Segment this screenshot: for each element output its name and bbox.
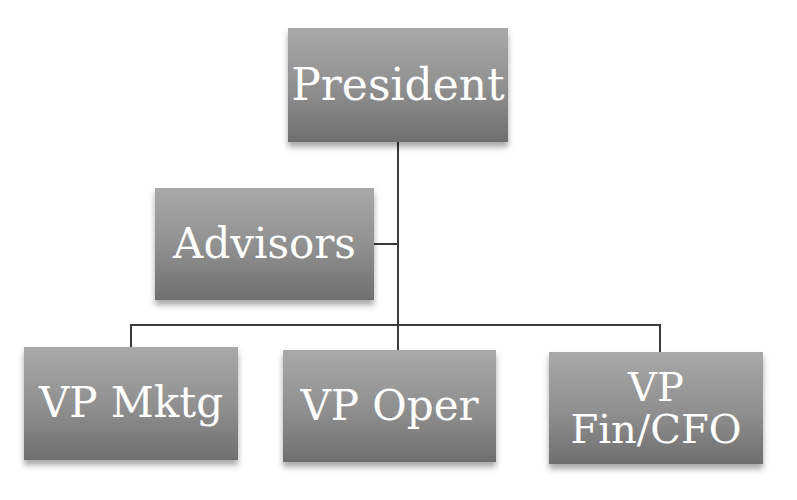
connector-advisors (374, 243, 398, 245)
node-vp-oper: VP Oper (283, 350, 496, 462)
node-advisors-label: Advisors (173, 222, 356, 266)
node-vp-fin-cfo: VP Fin/CFO (549, 352, 763, 464)
node-vp-oper-label: VP Oper (300, 384, 478, 428)
node-president: President (288, 28, 508, 142)
node-vp-mktg: VP Mktg (24, 347, 238, 460)
node-vp-fin-label-line1: VP (628, 366, 684, 408)
connector-vp-bus (130, 324, 661, 326)
connector-president-trunk (397, 142, 399, 350)
node-vp-mktg-label: VP Mktg (39, 381, 223, 425)
node-advisors: Advisors (155, 188, 374, 300)
connector-vp-fin (659, 324, 661, 352)
node-vp-fin-label-line2: Fin/CFO (571, 408, 742, 450)
node-president-label: President (291, 62, 505, 108)
connector-vp-mktg (130, 324, 132, 348)
